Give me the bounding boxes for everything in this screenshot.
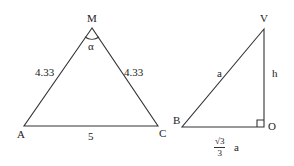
side-label-vo: h	[272, 68, 278, 79]
vertex-label-o: O	[268, 121, 276, 132]
right-angle-marker	[257, 120, 264, 127]
side-label-bo-fraction: √3 3	[214, 137, 225, 158]
fraction-denominator: 3	[214, 148, 225, 158]
vertex-label-a: A	[17, 129, 25, 140]
angle-alpha-arc	[85, 37, 99, 39]
vertex-label-b: B	[173, 115, 180, 126]
side-label-bv: a	[217, 68, 222, 79]
side-label-ma: 4.33	[35, 67, 54, 78]
vertex-label-m: M	[87, 13, 97, 24]
angle-label-alpha: α	[88, 41, 94, 52]
right-triangle	[182, 29, 264, 127]
diagram-canvas	[0, 0, 294, 166]
side-label-mc: 4.33	[124, 67, 143, 78]
side-label-ac: 5	[88, 131, 94, 142]
side-label-bo-suffix: a	[234, 142, 239, 153]
fraction-numerator: √3	[214, 137, 225, 148]
vertex-label-v: V	[260, 13, 268, 24]
vertex-label-c: C	[159, 128, 166, 139]
